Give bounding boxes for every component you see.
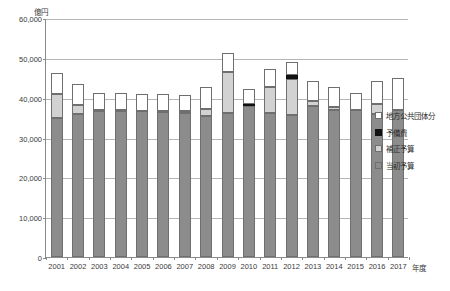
bar-segment xyxy=(286,115,298,257)
bar-segment xyxy=(264,69,276,87)
bar-group xyxy=(157,94,169,257)
bar-group xyxy=(51,73,63,257)
x-tick-label: 2016 xyxy=(369,262,386,271)
bar-segment xyxy=(264,113,276,257)
x-tick-label: 2013 xyxy=(305,262,322,271)
legend-swatch-icon xyxy=(375,145,382,152)
bar-segment xyxy=(93,93,105,110)
x-tick-label: 2014 xyxy=(326,262,343,271)
x-tick-mark xyxy=(324,257,325,260)
bar-segment xyxy=(243,106,255,257)
x-tick-label: 2002 xyxy=(70,262,87,271)
bar-segment xyxy=(328,110,340,257)
bar-segment xyxy=(179,111,191,113)
y-tick-label: 20,000 xyxy=(19,174,42,183)
legend-label: 補正予算 xyxy=(386,143,414,154)
x-tick-mark xyxy=(366,257,367,260)
x-tick-mark xyxy=(409,257,410,260)
bar-group xyxy=(243,89,255,257)
x-tick-mark xyxy=(67,257,68,260)
bar-segment xyxy=(72,105,84,115)
x-tick-label: 2009 xyxy=(219,262,236,271)
x-tick-mark xyxy=(195,257,196,260)
x-tick-mark xyxy=(153,257,154,260)
plot-area: 010,00020,00030,00040,00050,00060,000 20… xyxy=(45,19,408,258)
bar-segment xyxy=(222,53,234,71)
bar-group xyxy=(72,84,84,257)
bar-segment xyxy=(157,112,169,257)
y-tick-label: 50,000 xyxy=(19,54,42,63)
x-tick-mark xyxy=(46,257,47,260)
x-tick-label: 2005 xyxy=(134,262,151,271)
bar-segment xyxy=(350,110,362,257)
bar-segment xyxy=(93,111,105,257)
bar-segment xyxy=(286,79,298,115)
bar-segment xyxy=(307,101,319,106)
bar-segment xyxy=(307,106,319,257)
bar-segment xyxy=(264,87,276,112)
bar-segment xyxy=(392,78,404,109)
x-tick-mark xyxy=(302,257,303,260)
bar-segment xyxy=(200,116,212,257)
x-axis-unit-label: 年度 xyxy=(412,262,426,273)
legend-label: 地方公共団体分 xyxy=(386,110,435,121)
bar-segment xyxy=(371,81,383,104)
x-tick-mark xyxy=(260,257,261,260)
x-tick-mark xyxy=(217,257,218,260)
bar-segment xyxy=(157,94,169,112)
bar-segment xyxy=(200,87,212,109)
bar-group xyxy=(264,69,276,257)
bar-segment xyxy=(72,114,84,257)
y-tick-label: 0 xyxy=(38,254,42,263)
x-tick-mark xyxy=(388,257,389,260)
x-tick-label: 2011 xyxy=(262,262,278,271)
x-tick-label: 2007 xyxy=(176,262,193,271)
x-tick-mark xyxy=(281,257,282,260)
bar-group xyxy=(350,93,362,257)
bar-segment xyxy=(328,107,340,110)
bar-series-container xyxy=(46,19,408,257)
legend-swatch-icon xyxy=(375,112,382,119)
x-tick-mark xyxy=(174,257,175,260)
bar-segment xyxy=(136,111,148,257)
x-tick-mark xyxy=(131,257,132,260)
x-tick-label: 2010 xyxy=(241,262,258,271)
legend-item: 地方公共団体分 xyxy=(375,110,435,121)
y-tick-label: 60,000 xyxy=(19,15,42,24)
legend-label: 予備費 xyxy=(386,127,407,138)
x-tick-label: 2004 xyxy=(112,262,129,271)
x-tick-label: 2008 xyxy=(198,262,215,271)
x-tick-label: 2017 xyxy=(390,262,407,271)
bar-group xyxy=(328,87,340,257)
y-tick-label: 40,000 xyxy=(19,94,42,103)
bar-segment xyxy=(222,113,234,257)
bar-segment xyxy=(115,111,127,257)
y-tick-label: 10,000 xyxy=(19,214,42,223)
bar-group xyxy=(93,93,105,257)
legend-item: 補正予算 xyxy=(375,143,435,154)
bar-group xyxy=(179,95,191,257)
bar-segment xyxy=(51,73,63,93)
bar-segment xyxy=(286,75,298,78)
x-tick-mark xyxy=(238,257,239,260)
bar-segment xyxy=(136,94,148,111)
bar-group xyxy=(200,87,212,257)
x-tick-label: 2001 xyxy=(48,262,65,271)
bar-group xyxy=(115,93,127,258)
bar-group xyxy=(222,53,234,257)
legend-swatch-icon xyxy=(375,162,382,169)
bar-segment xyxy=(286,62,298,76)
bar-segment xyxy=(328,87,340,107)
legend-item: 当初予算 xyxy=(375,160,435,171)
bar-segment xyxy=(51,94,63,118)
bar-group xyxy=(136,94,148,257)
bar-segment xyxy=(243,89,255,105)
x-tick-label: 2012 xyxy=(283,262,300,271)
bar-segment xyxy=(350,93,362,109)
bar-segment xyxy=(307,81,319,101)
y-tick-label: 30,000 xyxy=(19,134,42,143)
bar-segment xyxy=(179,113,191,257)
bar-segment xyxy=(115,93,127,111)
bar-segment xyxy=(243,104,255,106)
stacked-bar-chart: 億円 010,00020,00030,00040,00050,00060,000… xyxy=(0,0,450,291)
